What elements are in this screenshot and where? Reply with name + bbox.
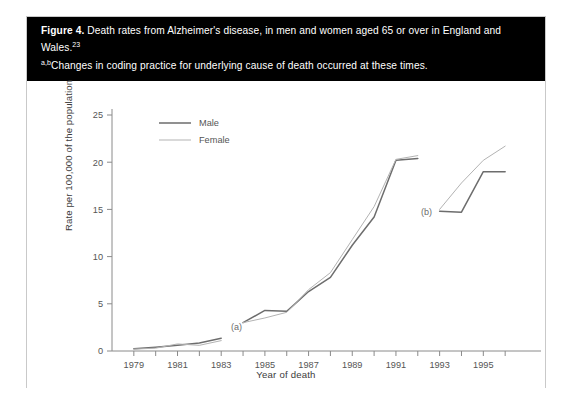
series-layer — [134, 146, 505, 349]
line-male-segment-3 — [440, 172, 506, 213]
legend-label-female: Female — [199, 135, 230, 145]
y-tick-label: 20 — [93, 158, 103, 168]
line-female-segment-2 — [243, 156, 418, 323]
y-tick-label: 15 — [93, 205, 103, 215]
line-male-segment-2 — [243, 158, 418, 322]
y-tick-label: 25 — [93, 110, 103, 120]
figure-label: Figure 4. — [41, 25, 84, 36]
figure-caption-text: Death rates from Alzheimer's disease, in… — [41, 25, 501, 54]
figure-caption-reference: 23 — [72, 41, 80, 48]
legend-label-male: Male — [199, 118, 219, 128]
line-chart: 0510152025197919811983198519871989199119… — [27, 81, 547, 381]
annotation-b: (b) — [421, 207, 432, 217]
footnote-text: Changes in coding practice for underlyin… — [51, 61, 428, 72]
annotations-layer: (a)(b) — [231, 207, 432, 332]
y-tick-label: 10 — [93, 252, 103, 262]
y-tick-label: 0 — [98, 346, 103, 356]
axes-layer — [107, 109, 541, 356]
legend-layer: MaleFemale — [159, 118, 230, 145]
plot-area: Rate per 100,000 of the population Year … — [27, 81, 545, 389]
annotation-a: (a) — [231, 322, 242, 332]
figure-caption-bar: Figure 4. Death rates from Alzheimer's d… — [27, 17, 545, 81]
footnote-marker: a,b — [41, 59, 51, 66]
y-axis-label: Rate per 100,000 of the population — [63, 80, 74, 231]
y-tick-label: 5 — [98, 299, 103, 309]
figure-card: Figure 4. Death rates from Alzheimer's d… — [26, 16, 546, 388]
tick-labels-layer: 0510152025197919811983198519871989199119… — [93, 110, 494, 370]
figure-caption-main: Figure 4. Death rates from Alzheimer's d… — [41, 24, 531, 56]
x-axis-label: Year of death — [27, 369, 545, 380]
figure-footnote: a,bChanges in coding practice for underl… — [41, 56, 531, 74]
line-female-segment-3 — [440, 146, 506, 209]
